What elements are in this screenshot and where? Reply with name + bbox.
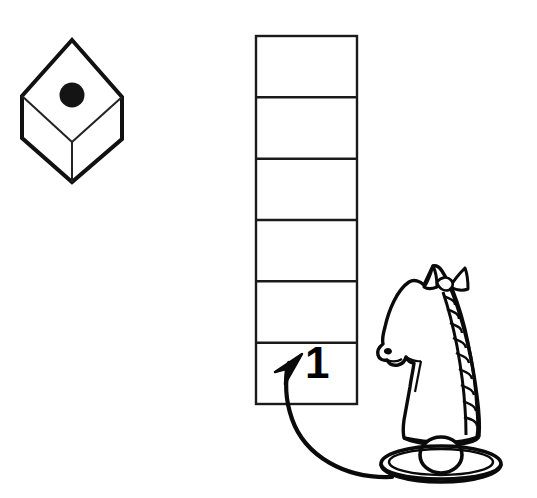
knight-forelock: [437, 278, 453, 291]
die-group: [0, 0, 537, 498]
knight-stem-ball: [420, 437, 462, 473]
isometric-die[interactable]: [22, 40, 122, 182]
chess-knight-piece[interactable]: [378, 266, 501, 482]
move-number-label: 1: [305, 341, 328, 385]
illustration-canvas: 1: [0, 0, 537, 498]
die-pip-1: [60, 83, 85, 108]
